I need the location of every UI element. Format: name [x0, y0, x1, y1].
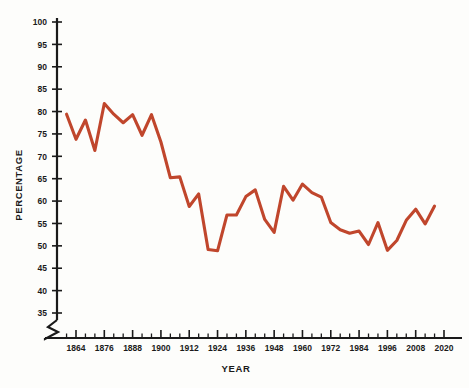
y-tick-label: 40	[38, 286, 48, 296]
x-tick-label: 1960	[293, 343, 312, 353]
chart-container: 35404550556065707580859095100 1864187618…	[0, 0, 469, 388]
x-axis-ticks: 1864187618881900191219241936194819601972…	[67, 330, 454, 353]
x-axis-title: YEAR	[222, 363, 251, 374]
y-tick-label: 70	[38, 152, 48, 162]
y-tick-label: 80	[38, 107, 48, 117]
y-tick-label: 65	[38, 174, 48, 184]
data-series-line	[67, 103, 435, 250]
x-tick-label: 1888	[123, 343, 142, 353]
x-tick-label: 2008	[406, 343, 425, 353]
x-tick-label: 1876	[95, 343, 114, 353]
x-tick-label: 1948	[265, 343, 284, 353]
y-tick-label: 75	[38, 129, 48, 139]
x-tick-label: 1864	[67, 343, 86, 353]
x-tick-label: 1972	[321, 343, 340, 353]
y-tick-label: 45	[38, 263, 48, 273]
x-tick-label: 1984	[350, 343, 369, 353]
x-tick-label: 2020	[435, 343, 454, 353]
line-chart: 35404550556065707580859095100 1864187618…	[0, 0, 469, 388]
y-tick-label: 85	[38, 84, 48, 94]
x-tick-label: 1900	[151, 343, 170, 353]
y-tick-label: 90	[38, 62, 48, 72]
y-tick-label: 95	[38, 40, 48, 50]
y-tick-label: 50	[38, 241, 48, 251]
y-tick-label: 55	[38, 219, 48, 229]
y-tick-label: 35	[38, 308, 48, 318]
y-tick-label: 100	[33, 17, 47, 27]
x-tick-label: 1912	[180, 343, 199, 353]
x-tick-label: 1936	[236, 343, 255, 353]
x-tick-label: 1996	[378, 343, 397, 353]
y-axis-title: PERCENTAGE	[13, 149, 24, 220]
axis-break-icon	[45, 320, 58, 339]
y-tick-label: 60	[38, 196, 48, 206]
x-tick-label: 1924	[208, 343, 227, 353]
